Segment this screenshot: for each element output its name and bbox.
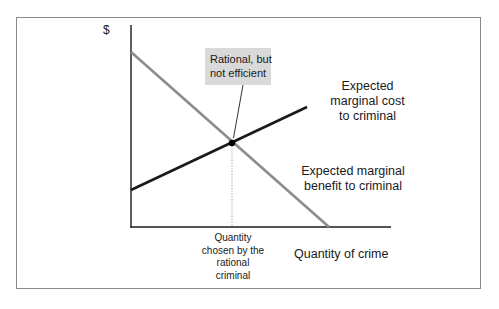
equilibrium-point [229,140,235,146]
label-line: Expected marginal [283,164,423,179]
callout-line: not efficient [210,66,266,80]
label-line: Expected [310,79,425,94]
marginal-cost-curve [131,107,307,190]
callout-line: Rational, but [210,52,266,66]
x-axis-label: Quantity of crime [294,247,388,261]
label-line: Quantity [198,232,268,245]
marginal-benefit-label: Expected marginal benefit to criminal [283,164,423,194]
label-line: benefit to criminal [283,179,423,194]
label-line: criminal [198,270,268,283]
rational-not-efficient-callout: Rational, but not efficient [205,48,271,85]
label-line: chosen by the [198,245,268,258]
marginal-cost-label: Expected marginal cost to criminal [310,79,425,124]
label-line: marginal cost [310,94,425,109]
label-line: to criminal [310,109,425,124]
callout-pointer [234,85,244,138]
label-line: rational [198,257,268,270]
y-axis-label: $ [103,23,110,37]
chosen-quantity-label: Quantity chosen by the rational criminal [198,232,268,282]
